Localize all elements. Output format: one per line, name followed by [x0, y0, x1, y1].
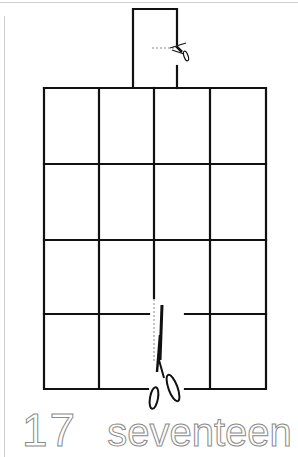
cut-out-sheet	[0, 0, 298, 457]
grid-frame-left	[44, 88, 148, 389]
number-word-text: seventeen	[107, 410, 292, 455]
scissors-icon-bottom	[148, 305, 182, 410]
number-label: 17 seventeen	[22, 403, 292, 453]
scissors-icon-top	[170, 43, 190, 61]
numeral-text: 17	[22, 403, 77, 457]
